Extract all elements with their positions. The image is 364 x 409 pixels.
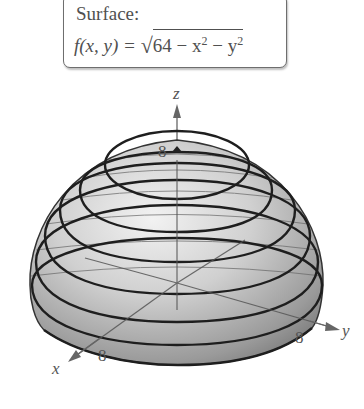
hemisphere-diagram: z 8 x 8 y 8: [0, 0, 364, 409]
y-axis-tick-8: 8: [295, 328, 304, 347]
y-axis-arrow-icon: [325, 322, 340, 331]
x-axis-arrow-icon: [68, 350, 81, 362]
z-axis-tick-8: 8: [158, 142, 167, 161]
y-axis: [310, 321, 340, 331]
x-axis-label: x: [51, 359, 60, 378]
z-axis-label: z: [172, 84, 180, 103]
x-axis-tick-8: 8: [98, 346, 107, 365]
y-axis-label: y: [340, 321, 350, 340]
z-axis-arrow-icon: [173, 104, 181, 118]
